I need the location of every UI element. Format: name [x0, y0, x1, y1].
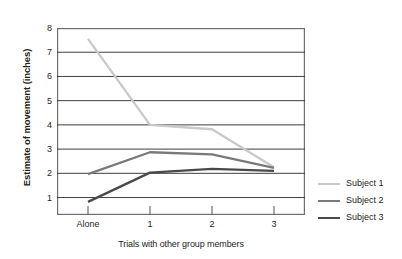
y-tick-label: 3 — [38, 145, 52, 154]
x-tick-label-1: 1 — [147, 219, 152, 230]
series-lines — [88, 39, 274, 202]
legend-label-subject-2: Subject 2 — [346, 194, 384, 207]
legend-swatch-subject-3 — [318, 217, 340, 219]
y-axis-tick-labels: 8 7 6 5 4 3 2 1 — [38, 28, 52, 215]
y-tick-label: 6 — [38, 72, 52, 81]
legend-label-subject-1: Subject 1 — [346, 177, 384, 190]
series-line-subject-3 — [88, 169, 274, 202]
y-tick-label: 4 — [38, 120, 52, 129]
legend-swatch-subject-1 — [318, 183, 340, 185]
x-tick-label-2: 2 — [209, 219, 214, 230]
legend-item-subject-1: Subject 1 — [318, 176, 402, 193]
y-tick-label: 5 — [38, 96, 52, 105]
plot-frame-border — [58, 29, 305, 215]
y-axis-title: Estimate of movement (inches) — [21, 18, 32, 218]
y-tick-label: 8 — [38, 24, 52, 33]
legend-label-subject-3: Subject 3 — [346, 211, 384, 224]
x-tick-label-3: 3 — [271, 219, 276, 230]
y-tick-label: 2 — [38, 169, 52, 178]
legend-item-subject-2: Subject 2 — [318, 193, 402, 210]
chart-legend: Subject 1 Subject 2 Subject 3 — [318, 176, 402, 227]
series-line-subject-1 — [88, 39, 274, 167]
legend-swatch-subject-2 — [318, 200, 340, 202]
x-axis-ticks — [88, 206, 274, 214]
y-tick-label: 1 — [38, 193, 52, 202]
gridlines — [57, 52, 305, 197]
legend-item-subject-3: Subject 3 — [318, 210, 402, 227]
x-tick-label-alone: Alone — [76, 219, 99, 230]
line-chart-figure: Estimate of movement (inches) 8 7 6 5 4 … — [0, 0, 402, 259]
x-axis-tick-labels: Alone 1 2 3 — [57, 219, 305, 233]
x-axis-title: Trials with other group members — [57, 239, 305, 249]
plot-area — [57, 28, 305, 215]
plot-svg — [57, 28, 305, 215]
y-tick-label: 7 — [38, 48, 52, 57]
